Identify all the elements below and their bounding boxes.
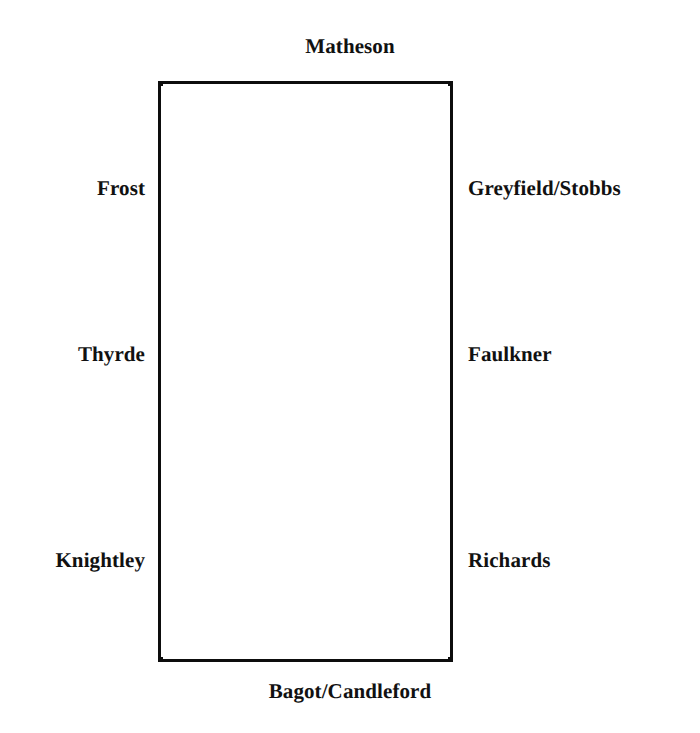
parcel-rectangle — [158, 81, 453, 662]
boundary-label-left-3: Knightley — [0, 550, 145, 571]
boundary-label-top: Matheson — [0, 36, 700, 57]
parcel-boundary-diagram: Matheson Frost Thyrde Knightley Greyfiel… — [0, 0, 700, 733]
parcel-corner-top-right — [448, 81, 453, 86]
boundary-label-left-1: Frost — [0, 178, 145, 199]
parcel-corner-bottom-left — [158, 657, 163, 662]
boundary-label-right-3: Richards — [468, 550, 550, 571]
parcel-corner-top-left — [158, 81, 163, 86]
parcel-edge-bottom — [158, 659, 453, 662]
boundary-label-left-2: Thyrde — [0, 344, 145, 365]
parcel-edge-right — [450, 81, 453, 662]
boundary-label-right-2: Faulkner — [468, 344, 552, 365]
parcel-edge-left — [158, 81, 161, 662]
parcel-corner-bottom-right — [448, 657, 453, 662]
parcel-edge-top — [158, 81, 453, 84]
boundary-label-right-1: Greyfield/Stobbs — [468, 178, 621, 199]
boundary-label-bottom: Bagot/Candleford — [0, 681, 700, 702]
